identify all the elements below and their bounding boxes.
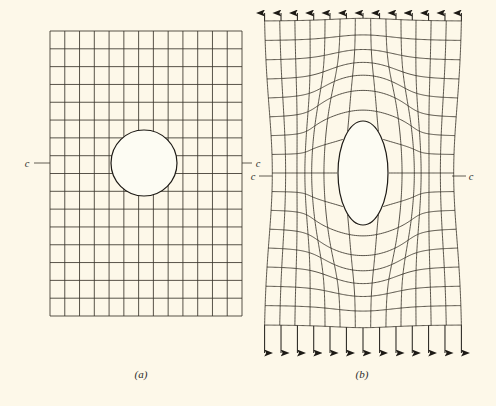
stress-concentration-figure: c c (a) c c (b): [0, 0, 496, 406]
panel-a: c c (a): [25, 31, 261, 381]
panel-caption-a: (a): [135, 368, 148, 381]
circular-hole: [111, 130, 177, 196]
tension-arrows-top: [265, 13, 462, 21]
section-label-c-b-right: c: [469, 171, 474, 182]
section-label-c-a-left: c: [25, 158, 30, 169]
tension-arrows-bottom: [265, 325, 462, 353]
panel-caption-b: (b): [356, 368, 369, 381]
elliptical-hole: [338, 121, 388, 225]
panel-b: c c (b): [251, 13, 474, 381]
section-label-c-b-left: c: [251, 171, 256, 182]
section-label-c-a-right: c: [256, 158, 261, 169]
